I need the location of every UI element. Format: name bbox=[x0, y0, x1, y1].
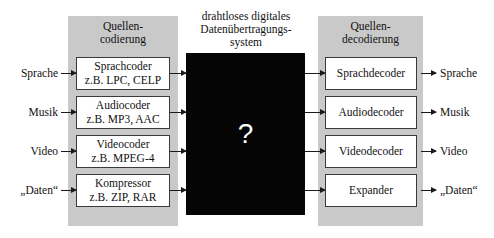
arrow-speech-to-coder bbox=[61, 73, 76, 74]
source-coding-panel: Quellen- codierung Sprachcoder z.B. LPC,… bbox=[68, 16, 178, 226]
output-label-data: „Daten“ bbox=[440, 184, 478, 197]
expander-label: Expander bbox=[349, 184, 393, 198]
input-label-data: „Daten“ bbox=[0, 184, 58, 197]
video-decoder-box: Videodecoder bbox=[325, 135, 417, 168]
video-coder-label: Videocoder z.B. MPEG-4 bbox=[92, 138, 155, 165]
compressor-box: Kompressor z.B. ZIP, RAR bbox=[76, 174, 170, 207]
diagram-canvas: Quellen- codierung Sprachcoder z.B. LPC,… bbox=[0, 0, 494, 238]
arrow-videocoder-to-blackbox bbox=[170, 151, 186, 152]
source-decoding-panel-title: Quellen- decodierung bbox=[318, 20, 423, 46]
video-decoder-label: Videodecoder bbox=[339, 145, 403, 159]
input-label-music: Musik bbox=[0, 106, 58, 119]
input-label-speech: Sprache bbox=[0, 67, 58, 80]
audio-coder-label: Audiocoder z.B. MP3, AAC bbox=[86, 99, 159, 126]
source-decoding-panel: Quellen- decodierung Sprachdecoder Audio… bbox=[318, 16, 423, 226]
arrow-expander-to-output bbox=[421, 190, 436, 191]
arrow-compressor-to-blackbox bbox=[170, 190, 186, 191]
speech-decoder-label: Sprachdecoder bbox=[337, 67, 405, 81]
speech-coder-label: Sprachcoder z.B. LPC, CELP bbox=[85, 60, 161, 87]
arrow-audiodecoder-to-output bbox=[421, 112, 436, 113]
transmission-system-blackbox: ? bbox=[186, 53, 305, 215]
arrow-video-to-coder bbox=[61, 151, 76, 152]
video-coder-box: Videocoder z.B. MPEG-4 bbox=[76, 135, 170, 168]
arrow-blackbox-to-videodecoder bbox=[305, 151, 325, 152]
arrow-blackbox-to-speechdecoder bbox=[305, 73, 325, 74]
arrow-blackbox-to-expander bbox=[305, 190, 325, 191]
output-label-video: Video bbox=[440, 145, 467, 158]
question-mark-icon: ? bbox=[186, 53, 305, 215]
input-label-video: Video bbox=[0, 145, 58, 158]
source-coding-panel-title: Quellen- codierung bbox=[68, 20, 178, 46]
output-label-music: Musik bbox=[440, 106, 469, 119]
expander-box: Expander bbox=[325, 174, 417, 207]
speech-decoder-box: Sprachdecoder bbox=[325, 57, 417, 90]
arrow-videodecoder-to-output bbox=[421, 151, 436, 152]
arrow-speechdecoder-to-output bbox=[421, 73, 436, 74]
arrow-audiocoder-to-blackbox bbox=[170, 112, 186, 113]
speech-coder-box: Sprachcoder z.B. LPC, CELP bbox=[76, 57, 170, 90]
arrow-music-to-coder bbox=[61, 112, 76, 113]
output-label-speech: Sprache bbox=[440, 67, 477, 80]
compressor-label: Kompressor z.B. ZIP, RAR bbox=[90, 177, 157, 204]
arrow-data-to-coder bbox=[61, 190, 76, 191]
arrow-blackbox-to-audiodecoder bbox=[305, 112, 325, 113]
audio-decoder-box: Audiodecoder bbox=[325, 96, 417, 129]
transmission-system-heading: drahtloses digitales Datenübertragungs- … bbox=[182, 10, 310, 49]
arrow-speechcoder-to-blackbox bbox=[170, 73, 186, 74]
audio-decoder-label: Audiodecoder bbox=[338, 106, 403, 120]
audio-coder-box: Audiocoder z.B. MP3, AAC bbox=[76, 96, 170, 129]
